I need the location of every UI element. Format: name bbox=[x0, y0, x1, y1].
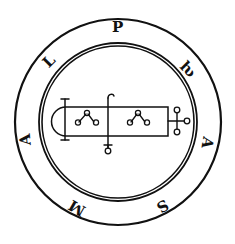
ring-letter: P bbox=[112, 20, 123, 35]
right-cross-symbol bbox=[168, 107, 190, 135]
ring-letter: A bbox=[18, 133, 34, 146]
left-caret-symbol bbox=[75, 110, 98, 125]
right-caret-symbol bbox=[127, 110, 149, 125]
inner-circle-outer bbox=[39, 43, 197, 201]
ring-letter: A bbox=[198, 135, 215, 149]
seal-drawing bbox=[0, 0, 235, 244]
central-bar bbox=[51, 107, 168, 136]
